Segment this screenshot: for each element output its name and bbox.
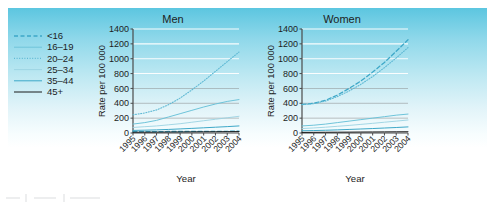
series-line-women-16-19 (302, 114, 408, 126)
legend-label-16: <16 (47, 30, 63, 41)
legend-label-35-44: 35–44 (47, 75, 73, 86)
chart-canvas: <1616–1920–2425–3435–4445+02004006008001… (0, 0, 495, 205)
y-axis-label-women: Rate per 100 000 (266, 45, 276, 117)
plot-area-men (133, 29, 239, 133)
y-tick-label-women-400: 400 (283, 98, 298, 108)
y-tick-label-women-800: 800 (283, 69, 298, 79)
legend-label-16-19: 16–19 (47, 41, 73, 52)
y-tick-label-women-1000: 1000 (278, 54, 298, 64)
series-line-men-20-24 (133, 52, 239, 115)
plot-area-women (302, 29, 408, 133)
x-axis-label-women: Year (345, 173, 365, 184)
series-line-women-45 (302, 132, 408, 133)
y-tick-label-men-1400: 1400 (109, 24, 129, 34)
y-tick-label-men-600: 600 (114, 84, 129, 94)
y-axis-label-men: Rate per 100 000 (97, 45, 107, 117)
x-axis-label-men: Year (176, 173, 196, 184)
legend-label-20-24: 20–24 (47, 53, 73, 64)
series-line-women-16 (302, 40, 408, 105)
panel-title-women: Women (323, 13, 361, 25)
y-tick-label-men-800: 800 (114, 69, 129, 79)
y-tick-label-men-1000: 1000 (109, 54, 129, 64)
scan-artifact (4, 192, 124, 204)
chart-figure: <1616–1920–2425–3435–4445+02004006008001… (0, 0, 495, 205)
y-tick-label-men-1200: 1200 (109, 39, 129, 49)
legend-label-45: 45+ (47, 86, 64, 97)
legend-label-25-34: 25–34 (47, 64, 73, 75)
y-tick-label-women-1400: 1400 (278, 24, 298, 34)
y-tick-label-women-200: 200 (283, 113, 298, 123)
y-tick-label-women-1200: 1200 (278, 39, 298, 49)
y-tick-label-women-600: 600 (283, 84, 298, 94)
y-tick-label-men-200: 200 (114, 113, 129, 123)
series-line-women-20-24 (302, 48, 408, 105)
series-line-men-45 (133, 132, 239, 133)
panel-title-men: Men (162, 13, 183, 25)
y-tick-label-men-400: 400 (114, 98, 129, 108)
